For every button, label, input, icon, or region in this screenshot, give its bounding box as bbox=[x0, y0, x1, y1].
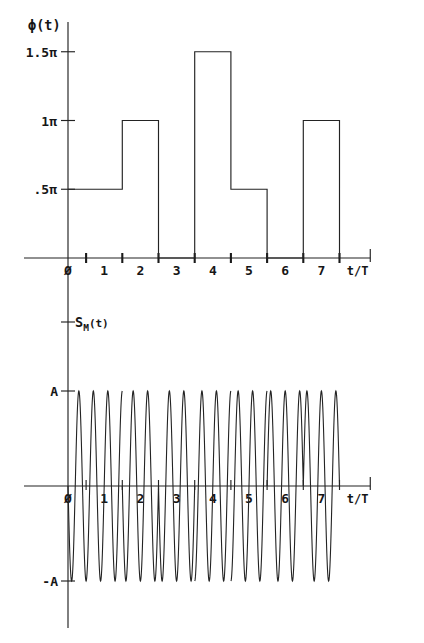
phase-x-tick-label: 5 bbox=[245, 263, 253, 278]
signal-label-tail: (t) bbox=[89, 317, 109, 330]
phase-step-curve bbox=[68, 52, 340, 258]
signal-x-axis-label: t/T bbox=[347, 492, 369, 506]
signal-y-tick-label: -A bbox=[42, 574, 58, 589]
phase-y-axis-label: ϕ(t) bbox=[28, 17, 61, 33]
phase-y-tick-label: 1π bbox=[41, 114, 57, 129]
signal-y-axis-label: SM(t) bbox=[75, 314, 109, 333]
signal-label-main: S bbox=[75, 314, 83, 330]
figure-container: ϕ(t)1.5π1π.5πØ1234567t/TSM(t)A-AØ1234567… bbox=[0, 0, 424, 643]
phase-x-tick-label: 6 bbox=[281, 263, 289, 278]
phase-x-tick-label: 1 bbox=[100, 263, 108, 278]
phase-x-axis-label: t/T bbox=[347, 264, 369, 278]
signal-plot: SM(t)A-AØ1234567t/T bbox=[24, 300, 370, 628]
signal-x-tick-label: 6 bbox=[281, 491, 289, 506]
phase-y-tick-label: .5π bbox=[34, 182, 58, 197]
phase-y-tick-label: 1.5π bbox=[26, 45, 57, 60]
signal-y-tick-label: A bbox=[50, 384, 58, 399]
phase-plot: ϕ(t)1.5π1π.5πØ1234567t/T bbox=[24, 17, 370, 300]
phase-x-tick-label: 7 bbox=[317, 263, 325, 278]
signal-x-tick-label: Ø bbox=[63, 491, 72, 506]
phase-x-tick-label: 4 bbox=[209, 263, 217, 278]
phase-x-tick-label: 2 bbox=[136, 263, 144, 278]
signal-x-tick-label: 7 bbox=[317, 491, 325, 506]
figure-svg: ϕ(t)1.5π1π.5πØ1234567t/TSM(t)A-AØ1234567… bbox=[0, 0, 424, 643]
phase-x-tick-label: Ø bbox=[63, 263, 72, 278]
phase-x-tick-label: 3 bbox=[173, 263, 181, 278]
